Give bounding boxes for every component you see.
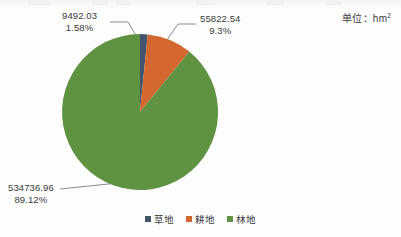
legend-swatch-grassland: [145, 216, 151, 222]
data-label-forest-percent: 89.12%: [8, 194, 54, 206]
legend-label-grassland: 草地: [154, 212, 174, 226]
legend-item-grassland[interactable]: 草地: [145, 212, 174, 226]
unit-annotation: 单位：hm2: [342, 10, 391, 25]
data-label-cropland-value: 55822.54: [200, 13, 240, 25]
legend-label-cropland: 耕地: [195, 212, 215, 226]
legend-swatch-cropland: [186, 216, 192, 222]
chart-legend: 草地 耕地 林地: [0, 212, 401, 226]
legend-item-cropland[interactable]: 耕地: [186, 212, 215, 226]
legend-swatch-forest: [227, 216, 233, 222]
leader-line-forest: [60, 183, 118, 189]
data-label-grassland: 9492.03 1.58%: [62, 10, 97, 33]
data-label-forest: 534736.96 89.12%: [8, 182, 54, 205]
legend-item-forest[interactable]: 林地: [227, 212, 256, 226]
unit-annotation-exponent: 2: [387, 12, 391, 19]
data-label-forest-value: 534736.96: [8, 182, 54, 194]
data-label-grassland-percent: 1.58%: [62, 22, 97, 34]
data-label-grassland-value: 9492.03: [62, 10, 97, 22]
legend-label-forest: 林地: [236, 212, 256, 226]
unit-annotation-text: 单位：hm: [342, 13, 387, 24]
data-label-cropland: 55822.54 9.3%: [200, 13, 240, 36]
data-label-cropland-percent: 9.3%: [200, 25, 240, 37]
pie-chart-figure: 9492.03 1.58% 55822.54 9.3% 534736.96 89…: [0, 0, 401, 237]
